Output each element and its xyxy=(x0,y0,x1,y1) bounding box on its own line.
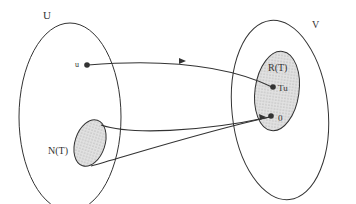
mapping-arrow-kernel-top-to-zero xyxy=(101,117,270,131)
set-v-label: V xyxy=(312,19,320,30)
point-zero xyxy=(268,113,274,119)
point-tu xyxy=(270,84,276,90)
arrowhead-icon xyxy=(179,58,186,64)
linear-map-diagram: U N(T) V R(T) u Tu 0 xyxy=(0,0,356,204)
range-label: R(T) xyxy=(268,62,287,74)
set-u-ellipse xyxy=(19,23,121,204)
set-u-label: U xyxy=(43,9,51,21)
point-u xyxy=(84,62,90,68)
point-zero-label: 0 xyxy=(278,113,283,123)
point-tu-label: Tu xyxy=(278,83,288,93)
kernel-label: N(T) xyxy=(48,145,68,157)
point-u-label: u xyxy=(75,60,79,69)
